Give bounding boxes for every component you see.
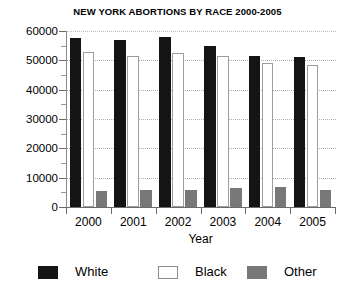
y-axis-tick-label: 20000: [0, 143, 58, 154]
bar-black-2001: [127, 56, 139, 207]
y-axis-tick-label: 30000: [0, 114, 58, 125]
legend-item-other: Other: [247, 262, 317, 282]
x-axis-tick: [111, 207, 112, 214]
bar-group: [202, 31, 247, 207]
legend-swatch-black: [158, 266, 178, 279]
x-axis-tick: [290, 207, 291, 214]
bar-other-2000: [96, 191, 108, 207]
y-axis-tick: [59, 31, 66, 32]
bar-white-2003: [204, 46, 216, 207]
y-axis-tick: [59, 119, 66, 120]
y-axis-labels: 0100002000030000400005000060000: [0, 31, 58, 207]
bar-white-2002: [159, 37, 171, 207]
y-axis-tick: [59, 207, 66, 208]
bar-other-2005: [320, 190, 332, 207]
y-axis-tick: [59, 178, 66, 179]
bar-other-2001: [140, 190, 152, 207]
y-axis-tick: [59, 60, 66, 61]
y-axis-tick-label: 60000: [0, 26, 58, 37]
bar-group: [67, 31, 112, 207]
bar-group: [112, 31, 157, 207]
y-axis-tick: [59, 148, 66, 149]
x-axis-tick: [66, 207, 67, 214]
legend-swatch-other: [247, 266, 267, 279]
bar-other-2004: [275, 187, 287, 207]
y-axis-minor-tick: [61, 75, 66, 76]
chart-title: NEW YORK ABORTIONS BY RACE 2000-2005: [0, 6, 355, 18]
y-axis-minor-tick: [61, 134, 66, 135]
bar-black-2002: [172, 53, 184, 207]
x-axis-label-2005: 2005: [290, 216, 335, 229]
bar-white-2005: [294, 57, 306, 207]
y-axis-tick-label: 10000: [0, 172, 58, 183]
bar-black-2000: [83, 52, 95, 207]
bar-other-2002: [185, 190, 197, 207]
bar-other-2003: [230, 188, 242, 207]
y-axis-minor-tick: [61, 104, 66, 105]
y-axis-minor-tick: [61, 46, 66, 47]
x-axis-label-2000: 2000: [66, 216, 111, 229]
bar-black-2004: [262, 63, 274, 207]
y-axis-tick-label: 50000: [0, 55, 58, 66]
legend-label: White: [75, 265, 108, 279]
y-axis-tick: [59, 90, 66, 91]
x-axis-tick: [335, 207, 336, 214]
bar-black-2005: [307, 65, 319, 207]
x-axis-label-2001: 2001: [111, 216, 156, 229]
x-axis-title: Year: [66, 232, 335, 246]
bar-white-2000: [70, 38, 82, 207]
y-axis-tick-label: 0: [0, 202, 58, 213]
bar-group: [246, 31, 291, 207]
legend-item-white: White: [38, 262, 108, 282]
y-axis-tick-label: 40000: [0, 84, 58, 95]
bar-chart: NEW YORK ABORTIONS BY RACE 2000-2005 010…: [0, 0, 355, 288]
legend-swatch-white: [38, 266, 58, 279]
chart-legend: WhiteBlackOther: [0, 262, 355, 284]
legend-item-black: Black: [158, 262, 227, 282]
bar-group: [291, 31, 336, 207]
legend-label: Other: [284, 265, 317, 279]
legend-label: Black: [195, 265, 227, 279]
x-axis-label-2004: 2004: [245, 216, 290, 229]
y-axis-minor-tick: [61, 163, 66, 164]
x-axis-tick: [245, 207, 246, 214]
x-axis-label-2003: 2003: [201, 216, 246, 229]
bar-group: [157, 31, 202, 207]
bar-white-2001: [114, 40, 126, 207]
bar-black-2003: [217, 56, 229, 207]
bar-white-2004: [249, 56, 261, 207]
plot-area: [66, 31, 336, 208]
x-axis-tick: [156, 207, 157, 214]
y-axis-minor-tick: [61, 192, 66, 193]
x-axis-label-2002: 2002: [156, 216, 201, 229]
x-axis-tick: [201, 207, 202, 214]
